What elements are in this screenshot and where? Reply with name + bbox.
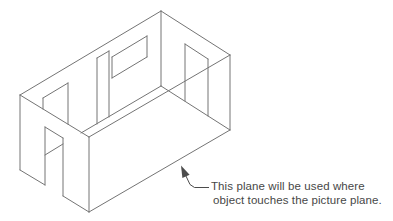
arrowhead-icon <box>181 166 190 179</box>
leader-line <box>185 174 209 188</box>
object-edge <box>112 36 147 57</box>
object-edge <box>89 130 230 212</box>
caption-line-1: This plane will be used where <box>211 179 365 194</box>
object-edge <box>20 11 161 95</box>
object-edge <box>43 83 68 98</box>
object-edge <box>63 196 89 212</box>
object-edge <box>112 57 147 78</box>
object-edge <box>45 144 63 155</box>
object-edge <box>89 55 230 137</box>
object-edge <box>20 170 45 185</box>
object-edge <box>97 51 109 58</box>
object-edge <box>161 11 230 55</box>
object-edge <box>81 86 161 133</box>
object-edge <box>185 44 208 59</box>
object-edge <box>45 127 63 138</box>
object-edge <box>161 86 230 130</box>
caption-line-2: object touches the picture plane. <box>213 193 382 208</box>
figure-canvas: This plane will be used where object tou… <box>0 0 393 221</box>
object-edge <box>20 95 89 137</box>
